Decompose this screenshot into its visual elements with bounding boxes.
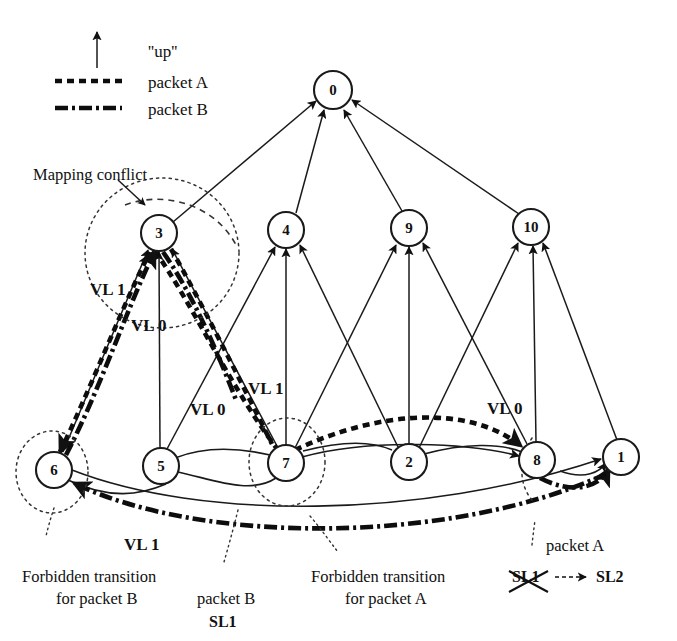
vl-label-4: VL 0 [190, 400, 225, 419]
node-6-label: 6 [50, 462, 58, 478]
forbidden-a-line-2: for packet A [345, 589, 427, 608]
legend: ''up'' packet A packet B [55, 32, 209, 119]
node-5[interactable]: 5 [143, 448, 179, 484]
node-5-label: 5 [157, 458, 165, 474]
node-2[interactable]: 2 [391, 444, 427, 480]
edge-8-10 [533, 246, 536, 442]
node-1-label: 1 [617, 449, 625, 465]
diagram-canvas: ''up'' packet A packet B [0, 0, 677, 641]
forbidden-b-line-1: Forbidden transition [22, 567, 156, 586]
node-4-label: 4 [282, 222, 290, 238]
node-9-label: 9 [405, 220, 413, 236]
node-6[interactable]: 6 [36, 452, 72, 488]
node-0[interactable]: 0 [314, 71, 352, 109]
node-10-label: 10 [524, 219, 539, 235]
legend-packet-b-label: packet B [148, 100, 208, 119]
node-3[interactable]: 3 [141, 215, 177, 251]
node-9[interactable]: 9 [391, 210, 427, 246]
vl-label-5: VL 0 [487, 399, 522, 418]
vl-label-2: VL 0 [131, 316, 166, 335]
edge-5-7-upper [175, 449, 270, 458]
vl-label-3: VL 1 [248, 379, 283, 398]
node-7-label: 7 [282, 455, 290, 471]
packet-a-leader [532, 520, 535, 545]
legend-packet-a-label: packet A [148, 73, 209, 92]
vl-label-6: VL 1 [124, 535, 159, 554]
node-7[interactable]: 7 [268, 445, 304, 481]
packet-b-leader [224, 510, 238, 562]
forbidden-b-line-2: for packet B [56, 589, 138, 608]
packet-b-path [66, 251, 609, 528]
node-10[interactable]: 10 [513, 209, 549, 245]
sl-to-label: SL2 [596, 568, 624, 585]
node-4[interactable]: 4 [268, 212, 304, 248]
node-1[interactable]: 1 [603, 439, 639, 475]
edge-2-7-curve [303, 443, 392, 451]
node-8[interactable]: 8 [519, 442, 555, 478]
node-3-label: 3 [155, 225, 163, 241]
packet-b-caption: packet B [197, 589, 255, 608]
node-8-label: 8 [533, 452, 541, 468]
edge-2-4 [300, 245, 398, 447]
forbidden-a-line-1: Forbidden transition [311, 567, 445, 586]
edge-5-3 [159, 252, 160, 448]
node-layer: 0 3 4 9 10 6 5 [36, 71, 639, 488]
packet-a-caption: packet A [546, 536, 604, 555]
edge-9-0 [344, 110, 402, 211]
diagram-root: ''up'' packet A packet B [0, 0, 677, 641]
edge-1-10 [543, 243, 617, 440]
edge-7-9 [295, 245, 396, 448]
legend-up-label: ''up'' [148, 42, 177, 61]
forbidden-a-leader [310, 516, 338, 552]
node-0-label: 0 [329, 82, 337, 98]
vl-label-1: VL 1 [90, 280, 125, 299]
mapping-conflict-label: Mapping conflict [33, 165, 148, 184]
edge-10-0 [352, 100, 519, 214]
packet-b-sl-label: SL1 [209, 613, 237, 630]
edge-4-0 [296, 110, 324, 213]
edge-5-7-curve [178, 472, 276, 486]
edge-3-0 [173, 101, 316, 222]
packet-a-path [60, 249, 521, 452]
node-2-label: 2 [405, 454, 413, 470]
